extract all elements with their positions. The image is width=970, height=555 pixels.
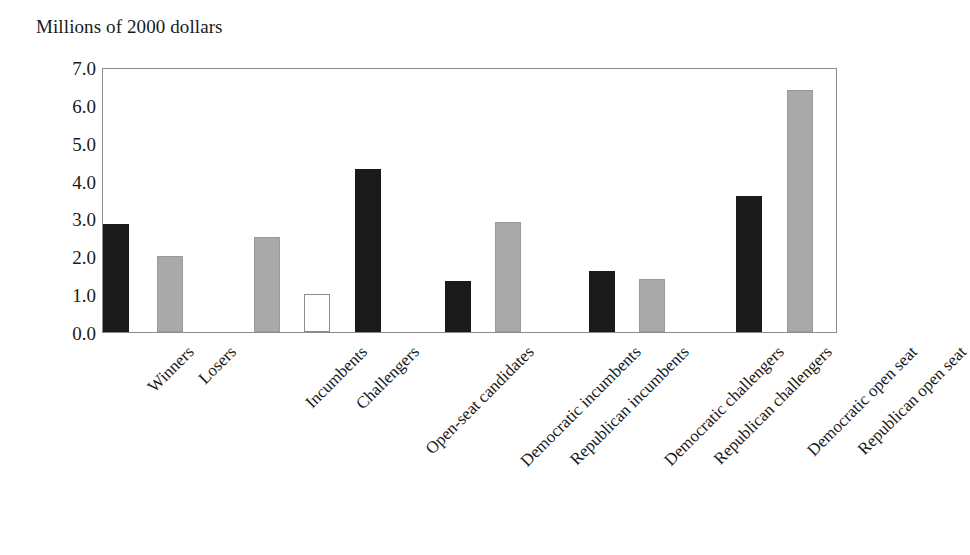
x-axis-label-open-seat-candidates: Open-seat candidates xyxy=(422,343,536,457)
bar-challengers xyxy=(304,294,330,332)
bar-republican-challengers xyxy=(639,279,665,332)
y-axis-tick-label: 7.0 xyxy=(40,59,96,78)
bar-democratic-challengers xyxy=(589,271,615,332)
bar-democratic-incumbents xyxy=(445,281,471,332)
plot-area xyxy=(102,68,837,333)
y-axis-tick-label: 6.0 xyxy=(40,96,96,115)
bar-republican-open-seat xyxy=(787,90,813,332)
chart-axis-title: Millions of 2000 dollars xyxy=(36,16,223,38)
bar-losers xyxy=(157,256,183,332)
bar-winners xyxy=(103,224,129,332)
bar-democratic-open-seat xyxy=(736,196,762,332)
y-axis-tick-label: 1.0 xyxy=(40,286,96,305)
bar-series xyxy=(103,69,836,332)
bar-incumbents xyxy=(254,237,280,332)
x-axis-label-losers: Losers xyxy=(195,343,239,387)
x-axis-label-winners: Winners xyxy=(145,343,197,395)
y-axis-tick-label: 2.0 xyxy=(40,248,96,267)
y-axis-tick-label: 3.0 xyxy=(40,210,96,229)
bar-open-seat-candidates xyxy=(355,169,381,332)
bar-republican-incumbents xyxy=(495,222,521,332)
y-axis-tick-label: 5.0 xyxy=(40,134,96,153)
y-axis-tick-labels: 7.06.05.04.03.02.01.00.0 xyxy=(36,68,96,333)
y-axis-tick-label: 4.0 xyxy=(40,172,96,191)
x-axis-category-labels: WinnersLosersIncumbentsChallengersOpen-s… xyxy=(0,333,889,543)
